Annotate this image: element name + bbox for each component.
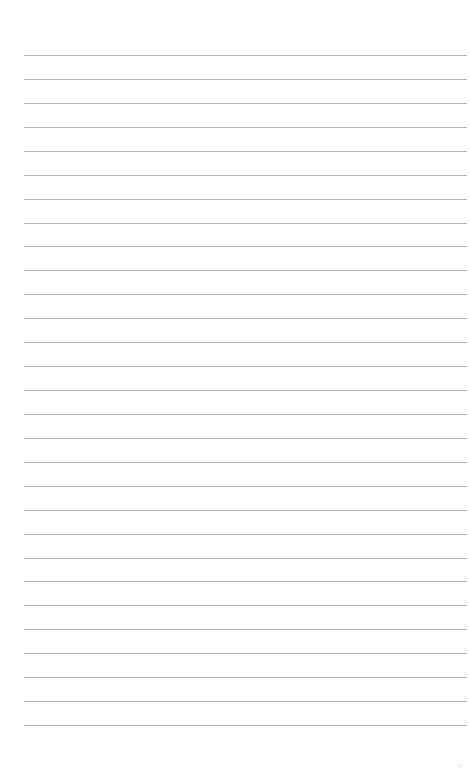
lined-paper-page: [0, 0, 470, 780]
ruled-line: [24, 605, 467, 606]
ruled-line: [24, 390, 467, 391]
ruled-line: [24, 175, 467, 176]
ruled-line: [24, 486, 467, 487]
ruled-line: [24, 629, 467, 630]
ruled-line: [24, 127, 467, 128]
ruled-line: [24, 270, 467, 271]
ruled-line: [24, 414, 467, 415]
ruled-line: [24, 318, 467, 319]
ruled-line: [24, 701, 467, 702]
ruled-line: [24, 55, 467, 56]
scan-speck: [459, 765, 460, 767]
ruled-line: [24, 223, 467, 224]
ruled-line: [24, 534, 467, 535]
ruled-line: [24, 510, 467, 511]
ruled-line: [24, 462, 467, 463]
ruled-line: [24, 342, 467, 343]
ruled-line: [24, 103, 467, 104]
ruled-line: [24, 677, 467, 678]
ruled-line: [24, 366, 467, 367]
ruled-line: [24, 294, 467, 295]
ruled-line: [24, 199, 467, 200]
ruled-line: [24, 558, 467, 559]
ruled-line: [24, 725, 467, 726]
ruled-line: [24, 438, 467, 439]
ruled-line: [24, 653, 467, 654]
ruled-line: [24, 79, 467, 80]
ruled-line: [24, 246, 467, 247]
ruled-line: [24, 151, 467, 152]
ruled-line: [24, 581, 467, 582]
